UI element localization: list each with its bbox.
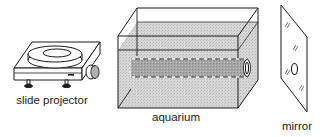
- aquarium-label: aquarium: [152, 112, 200, 124]
- tube-icon: [130, 59, 251, 77]
- mirror-icon: [281, 5, 307, 112]
- slide-projector-label: slide projector: [16, 95, 88, 107]
- slide-projector-icon: [14, 42, 100, 88]
- aquarium-icon: [118, 8, 258, 108]
- diagram-canvas: slide projector aquarium mirror: [0, 0, 331, 137]
- mirror-label: mirror: [282, 121, 312, 133]
